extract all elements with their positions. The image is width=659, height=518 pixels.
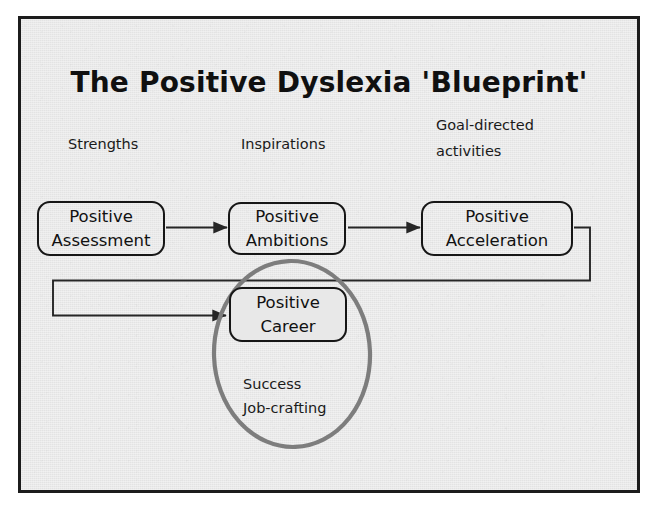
node-line-2: Assessment (52, 229, 151, 252)
node-line-1: Positive (465, 205, 529, 228)
highlight-note-success: Success (243, 376, 301, 392)
diagram-page: The Positive Dyslexia 'Blueprint' Streng… (0, 0, 659, 518)
node-line-1: Positive (255, 205, 319, 228)
node-line-2: Career (260, 315, 315, 338)
node-line-2: Acceleration (446, 229, 549, 252)
node-line-1: Positive (69, 205, 133, 228)
highlight-note-job-crafting: Job-crafting (243, 400, 326, 416)
node-positive-assessment[interactable]: Positive Assessment (37, 201, 165, 256)
node-positive-career[interactable]: Positive Career (229, 287, 347, 342)
node-positive-ambitions[interactable]: Positive Ambitions (228, 202, 346, 255)
node-line-1: Positive (256, 291, 320, 314)
node-line-2: Ambitions (246, 229, 329, 252)
connector-layer (21, 19, 643, 496)
slide-frame: The Positive Dyslexia 'Blueprint' Streng… (18, 16, 640, 493)
node-positive-acceleration[interactable]: Positive Acceleration (421, 201, 573, 256)
